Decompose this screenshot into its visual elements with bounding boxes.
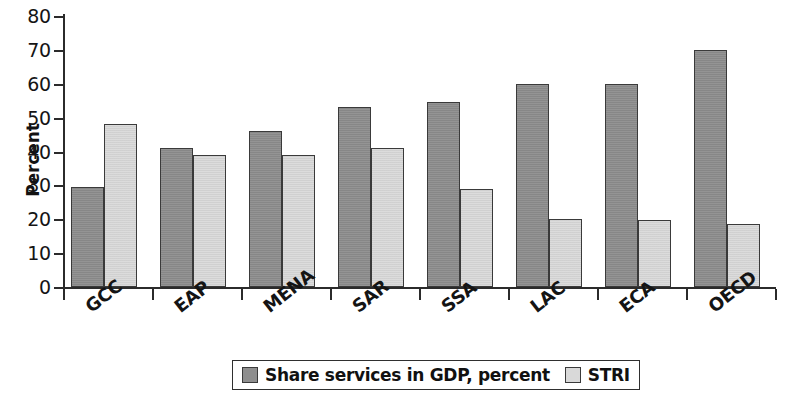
bar [460,189,493,287]
bar [371,148,404,287]
x-axis-tick [686,289,688,300]
bar [516,84,549,287]
bar [193,155,226,287]
bar [104,124,137,287]
y-axis-tick [54,16,63,18]
bar [249,131,282,287]
y-axis-tick [54,185,63,187]
legend-swatch-light-icon [565,367,581,383]
y-axis-tick-label: 10 [27,242,51,264]
x-axis-tick [508,289,510,300]
y-axis-tick-label: 0 [39,276,51,298]
chart-legend: Share services in GDP, percent STRI [232,360,640,390]
y-axis-tick [54,219,63,221]
x-axis-tick [597,289,599,300]
x-axis-tick [63,289,65,300]
bar-chart: Percent 01020304050607080 GCCEAPMENASARS… [0,0,785,395]
y-axis-tick-label: 20 [27,208,51,230]
y-axis-tick-labels: 01020304050607080 [0,0,53,395]
bar [160,148,193,287]
bar-group [160,16,226,287]
y-axis-tick-label: 40 [27,141,51,163]
x-axis-tick [775,289,777,300]
y-axis-tick-label: 60 [27,73,51,95]
bar-group [338,16,404,287]
legend-label-share-services: Share services in GDP, percent [265,365,550,385]
legend-item-share-services: Share services in GDP, percent [242,365,550,385]
bar [338,107,371,287]
y-axis-tick [54,253,63,255]
bar-group [605,16,671,287]
bar [282,155,315,287]
legend-swatch-dark-icon [242,367,258,383]
y-axis-tick-label: 30 [27,174,51,196]
x-axis-tick [241,289,243,300]
y-axis-tick [54,118,63,120]
y-axis-tick-label: 80 [27,5,51,27]
x-axis-tick [330,289,332,300]
y-axis-tick [54,84,63,86]
bar [71,187,104,287]
y-axis-tick [54,152,63,154]
x-axis-tick [152,289,154,300]
bar-group [694,16,760,287]
bar-group [516,16,582,287]
legend-label-stri: STRI [588,365,630,385]
y-axis-tick [54,287,63,289]
y-axis-tick-label: 50 [27,107,51,129]
y-axis-tick [54,50,63,52]
bar-group [249,16,315,287]
x-axis-tick [419,289,421,300]
bar [605,84,638,287]
bar [427,102,460,287]
bar-group [427,16,493,287]
plot-area [63,16,775,287]
bar [694,50,727,287]
y-axis-tick-label: 70 [27,39,51,61]
bar-group [71,16,137,287]
legend-item-stri: STRI [565,365,630,385]
